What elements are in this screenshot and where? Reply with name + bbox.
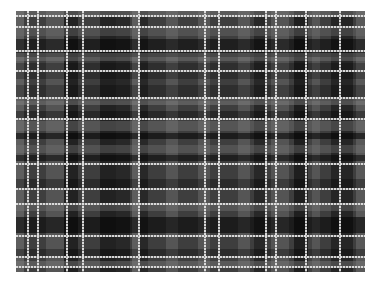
horizontal-white-line bbox=[16, 70, 365, 72]
horizontal-stripe bbox=[16, 145, 365, 153]
horizontal-white-line bbox=[16, 97, 365, 99]
horizontal-white-line bbox=[16, 256, 365, 258]
horizontal-stripe bbox=[16, 28, 365, 36]
horizontal-white-line bbox=[16, 50, 365, 52]
horizontal-white-line bbox=[16, 118, 365, 120]
horizontal-white-line bbox=[16, 26, 365, 28]
horizontal-white-line bbox=[16, 188, 365, 190]
horizontal-white-line bbox=[16, 235, 365, 237]
plaid-pattern-image bbox=[16, 11, 365, 272]
horizontal-white-line bbox=[16, 266, 365, 268]
horizontal-stripe bbox=[16, 217, 365, 233]
horizontal-stripe bbox=[16, 133, 365, 139]
horizontal-stripe bbox=[16, 155, 365, 161]
horizontal-white-line bbox=[16, 203, 365, 205]
horizontal-stripe bbox=[16, 121, 365, 131]
horizontal-stripe bbox=[16, 99, 365, 105]
horizontal-white-line bbox=[16, 15, 365, 17]
horizontal-white-line bbox=[16, 163, 365, 165]
horizontal-stripe bbox=[16, 53, 365, 61]
